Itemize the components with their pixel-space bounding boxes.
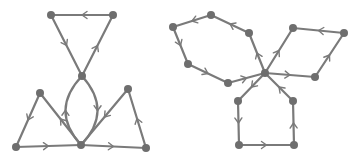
- graph-node: [289, 97, 297, 105]
- graph-node: [340, 29, 348, 37]
- graph-node: [234, 97, 242, 105]
- graph-node: [109, 11, 117, 19]
- left-graph: [12, 11, 150, 152]
- graph-node: [290, 141, 298, 149]
- graph-node: [36, 89, 44, 97]
- graph-node: [77, 141, 85, 149]
- graph-node: [245, 29, 253, 37]
- directed-graphs-diagram: [0, 0, 364, 159]
- graph-node: [207, 11, 215, 19]
- graph-node: [224, 79, 232, 87]
- graph-node: [235, 141, 243, 149]
- graph-node: [261, 69, 269, 77]
- graph-node: [184, 60, 192, 68]
- graph-node: [124, 85, 132, 93]
- graph-node: [311, 73, 319, 81]
- graph-node: [47, 11, 55, 19]
- graph-node: [12, 143, 20, 151]
- graph-node: [169, 23, 177, 31]
- graph-node: [142, 144, 150, 152]
- right-graph: [169, 11, 348, 149]
- graph-node: [78, 72, 86, 80]
- graph-node: [289, 24, 297, 32]
